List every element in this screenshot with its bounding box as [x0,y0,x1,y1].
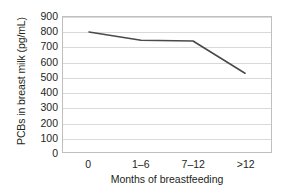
y-axis-tick-label: 700 [18,41,58,52]
y-axis-tick-label: 900 [18,11,58,22]
plot-area [62,16,272,153]
y-axis-tick-label: 200 [18,117,58,128]
x-axis-tick-label: 1–6 [132,157,150,171]
y-axis-tick-label: 400 [18,87,58,98]
x-axis-tick-label: 0 [85,157,91,171]
series-line-chart [63,17,271,152]
y-axis-tick-label: 300 [18,102,58,113]
y-axis-tick-labels: 0100200300400500600700800900 [18,0,58,191]
x-axis-tick-label: 7–12 [182,157,205,171]
y-axis-tick-label: 0 [18,148,58,159]
y-axis-tick-label: 100 [18,132,58,143]
y-axis-tick-label: 800 [18,26,58,37]
series-line [89,32,245,73]
x-axis-title: Months of breastfeeding [62,173,272,186]
y-axis-tick-label: 500 [18,71,58,82]
y-axis-tick-label: 600 [18,56,58,67]
x-axis-tick-label: >12 [237,157,255,171]
chart-figure: PCBs in breast milk (pg/mL) 010020030040… [0,0,288,191]
x-axis-tick-labels: 01–67–12>12 [62,157,272,171]
